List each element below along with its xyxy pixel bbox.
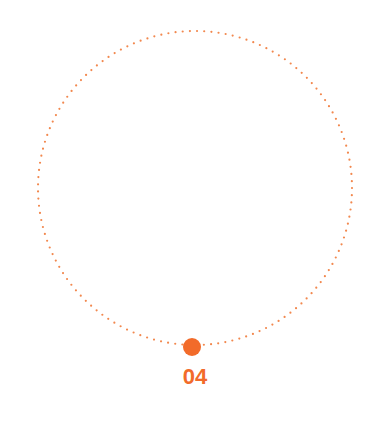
dotted-circle xyxy=(0,0,380,425)
marker-dot xyxy=(183,338,201,356)
marker-label: 04 xyxy=(170,364,220,390)
